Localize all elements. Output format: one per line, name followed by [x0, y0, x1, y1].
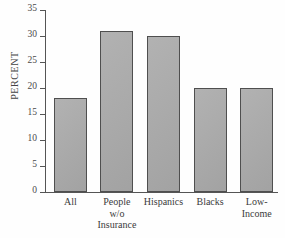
- y-tick: 20: [40, 88, 46, 89]
- y-tick: 35: [40, 10, 46, 11]
- y-tick-label: 0: [32, 185, 37, 195]
- plot-area: 05101520253035: [45, 11, 278, 193]
- y-tick: 5: [40, 166, 46, 167]
- bar-chart: PERCENT 05101520253035 AllPeople w/o Ins…: [0, 0, 285, 238]
- y-tick: 10: [40, 140, 46, 141]
- bar: [240, 88, 273, 192]
- x-axis-line: [45, 192, 278, 193]
- y-tick-label: 15: [28, 107, 38, 117]
- y-tick-label: 35: [28, 3, 38, 13]
- y-tick-label: 30: [28, 29, 38, 39]
- y-tick: 25: [40, 62, 46, 63]
- y-tick: 0: [40, 192, 46, 193]
- y-tick-label: 10: [28, 133, 38, 143]
- bar: [194, 88, 227, 192]
- x-tick-label: Low- Income: [217, 196, 285, 219]
- y-axis-title: PERCENT: [9, 31, 20, 121]
- bar: [54, 98, 87, 192]
- y-tick-label: 20: [28, 81, 38, 91]
- y-tick: 30: [40, 36, 46, 37]
- bar: [147, 36, 180, 192]
- y-tick-label: 5: [32, 159, 37, 169]
- y-tick: 15: [40, 114, 46, 115]
- y-tick-label: 25: [28, 55, 38, 65]
- bar: [100, 31, 133, 192]
